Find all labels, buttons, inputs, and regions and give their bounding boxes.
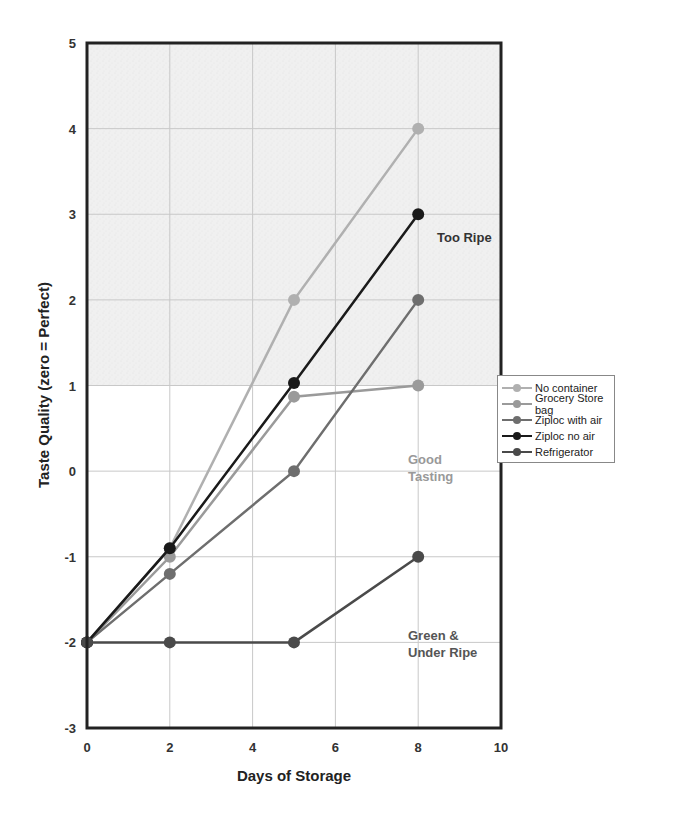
y-tick-label: 0 [69,464,76,479]
y-tick-label: 2 [69,293,76,308]
legend-item: Refrigerator [502,444,610,460]
legend-item: Ziploc with air [502,412,610,428]
y-tick-label: 3 [69,207,76,222]
legend-label: Ziploc no air [535,430,595,442]
data-point [164,568,176,580]
legend-swatch-icon [502,383,532,393]
y-tick-label: 4 [69,122,77,137]
data-point [288,465,300,477]
legend-label: Ziploc with air [535,414,602,426]
data-point [288,294,300,306]
y-tick-label: 1 [69,379,76,394]
x-tick-label: 2 [166,740,173,755]
data-point [288,636,300,648]
y-tick-label: -2 [64,635,76,650]
y-tick-label: -3 [64,721,76,736]
zone-label-good: Good [408,452,442,467]
data-point [412,123,424,135]
legend-label: Grocery Store bag [535,392,610,416]
y-tick-label: 5 [69,36,76,51]
zone-label-too-ripe: Too Ripe [437,230,492,245]
x-axis-title: Days of Storage [237,767,351,784]
legend-item: Ziploc no air [502,428,610,444]
zone-label-green: Green & [408,628,459,643]
x-tick-label: 10 [494,740,508,755]
x-tick-label: 8 [415,740,422,755]
data-point [412,294,424,306]
data-point [412,380,424,392]
data-point [412,551,424,563]
legend-swatch-icon [502,431,532,441]
legend-label: Refrigerator [535,446,593,458]
legend-item: Grocery Store bag [502,396,610,412]
data-point [164,636,176,648]
data-point [412,208,424,220]
legend-swatch-icon [502,447,532,457]
x-tick-label: 4 [249,740,257,755]
legend: No containerGrocery Store bagZiploc with… [497,375,615,463]
data-point [164,542,176,554]
legend-swatch-icon [502,399,532,409]
y-tick-label: -1 [64,550,76,565]
zone-label-tasting: Tasting [408,469,453,484]
x-tick-label: 6 [332,740,339,755]
zone-label-under-ripe: Under Ripe [408,645,477,660]
data-point [288,391,300,403]
x-tick-label: 0 [83,740,90,755]
legend-swatch-icon [502,415,532,425]
y-axis-title: Taste Quality (zero = Perfect) [35,282,52,488]
data-point [288,377,300,389]
